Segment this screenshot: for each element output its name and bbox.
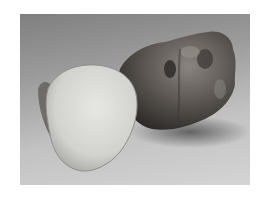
photo-illustration (20, 14, 250, 185)
page (0, 0, 261, 197)
halved-tuber (38, 65, 137, 171)
sunchoke-photo (20, 14, 250, 185)
